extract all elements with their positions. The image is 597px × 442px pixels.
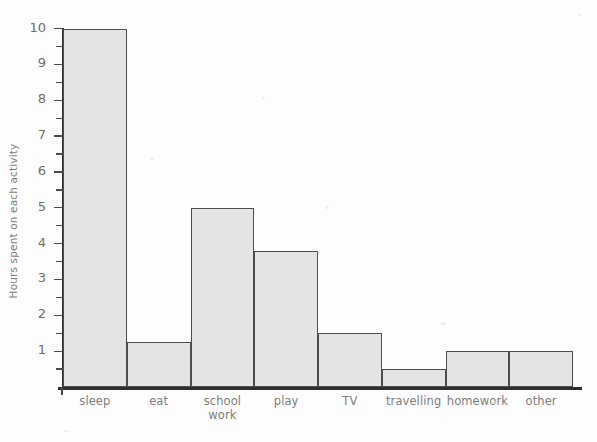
- x-axis-label-line1: other: [526, 394, 557, 408]
- x-axis-label-line2: work: [181, 408, 265, 422]
- x-axis-label-line1: sleep: [79, 394, 110, 408]
- bar: [509, 351, 573, 387]
- x-axis-label-line1: eat: [149, 394, 168, 408]
- x-axis-label: other: [499, 394, 583, 408]
- bar-chart: Hours spent on each activity 12345678910…: [0, 0, 597, 442]
- bar: [318, 333, 382, 387]
- x-axis-label-line1: play: [274, 394, 299, 408]
- bar: [127, 342, 191, 387]
- bar: [191, 208, 255, 387]
- bar: [254, 251, 318, 387]
- bar: [382, 369, 446, 387]
- bar: [63, 29, 127, 388]
- x-axis-label-line1: TV: [342, 394, 357, 408]
- x-axis-label-line1: school: [204, 394, 241, 408]
- x-axis-label-line1: travelling: [386, 394, 441, 408]
- bars-layer: [0, 0, 597, 442]
- bar: [446, 351, 510, 387]
